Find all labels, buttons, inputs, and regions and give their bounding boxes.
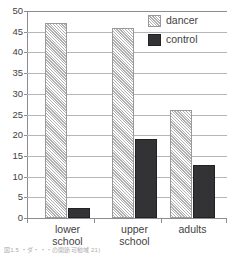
legend-label-dancer: dancer [166,15,198,26]
x-category-label-2: adults [150,224,233,236]
chart-legend: dancer control [148,12,227,50]
y-tick-mark-5 [24,197,27,198]
y-tick-mark-20 [24,135,27,136]
bar-dancer-1 [112,28,134,218]
y-tick-mark-25 [24,115,27,116]
y-tick-label-25: 25 [12,110,23,120]
x-tick-mark-0 [27,219,28,223]
bar-control-0 [68,208,90,218]
y-tick-label-20: 20 [12,130,23,140]
bar-dancer-0 [45,23,67,218]
y-tick-label-35: 35 [12,68,23,78]
y-tick-mark-15 [24,156,27,157]
y-tick-label-30: 30 [12,89,23,99]
bar-control-2 [193,165,215,218]
bar-chart-figure: 05101520253035404550 lower schoolupper s… [0,0,233,258]
y-tick-mark-30 [24,94,27,95]
legend-label-control: control [166,34,198,45]
legend-swatch-control-icon [148,34,161,46]
y-tick-label-40: 40 [12,48,23,58]
y-tick-label-10: 10 [12,172,23,182]
y-tick-label-5: 5 [18,193,23,203]
y-tick-mark-45 [24,32,27,33]
x-tick-mark-1 [94,219,95,223]
y-tick-label-15: 15 [12,151,23,161]
bar-control-1 [135,139,157,218]
legend-item-control: control [148,31,227,48]
figure-caption: 図1.5 ・ダ・・・の関節可動域 21) [4,246,229,254]
x-tick-mark-2 [161,219,162,223]
y-tick-mark-50 [24,11,27,12]
y-tick-label-45: 45 [12,27,23,37]
x-tick-mark-3 [226,219,227,223]
y-tick-label-0: 0 [18,213,23,223]
legend-item-dancer: dancer [148,12,227,29]
y-tick-mark-40 [24,52,27,53]
y-tick-mark-35 [24,73,27,74]
bar-dancer-2 [170,110,192,218]
y-tick-label-50: 50 [12,6,23,16]
y-tick-mark-10 [24,177,27,178]
legend-swatch-dancer-icon [148,15,161,27]
